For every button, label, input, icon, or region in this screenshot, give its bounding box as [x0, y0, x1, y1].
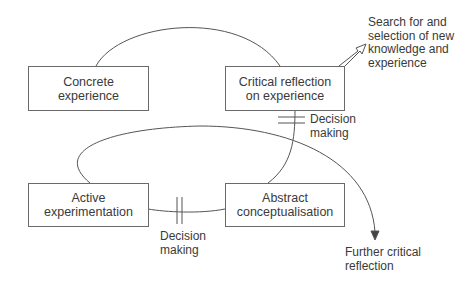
- decision-tick-upper: [278, 117, 305, 123]
- node-label: Concrete experience: [58, 75, 119, 103]
- node-label: Active experimentation: [44, 191, 133, 219]
- decision-tick-lower: [177, 197, 182, 224]
- annotation-further-reflection: Further critical reflection: [345, 246, 421, 273]
- annotation-decision-upper: Decision making: [310, 113, 356, 140]
- arc-active-to-abstract: [148, 209, 225, 212]
- arc-critical-to-abstract: [268, 110, 295, 183]
- node-abstract-conceptualisation: Abstract conceptualisation: [225, 183, 345, 227]
- node-label: Critical reflection on experience: [239, 75, 331, 103]
- arc-concrete-to-critical: [96, 28, 280, 66]
- node-critical-reflection: Critical reflection on experience: [225, 66, 345, 111]
- arrowhead-further: [371, 231, 379, 240]
- annotation-search: Search for and selection of new knowledg…: [368, 16, 454, 70]
- node-active-experimentation: Active experimentation: [28, 183, 149, 227]
- annotation-decision-lower: Decision making: [160, 230, 206, 257]
- node-concrete-experience: Concrete experience: [28, 66, 149, 111]
- node-label: Abstract conceptualisation: [237, 191, 334, 219]
